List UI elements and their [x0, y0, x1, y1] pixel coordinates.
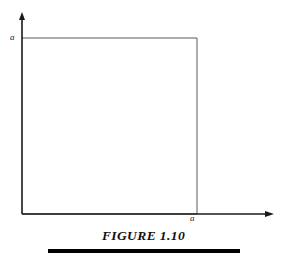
figure-caption: FIGURE 1.10 [0, 228, 287, 244]
x-axis-tick-label-a: a [190, 214, 195, 223]
y-axis-tick-label-a: a [10, 33, 15, 42]
figure-container: a a FIGURE 1.10 [0, 0, 287, 260]
plot-diagram [0, 0, 287, 222]
square-region-outline [22, 38, 197, 214]
caption-divider-rule [48, 249, 240, 253]
y-axis-arrowhead-icon [19, 12, 25, 20]
x-axis-arrowhead-icon [265, 211, 274, 217]
